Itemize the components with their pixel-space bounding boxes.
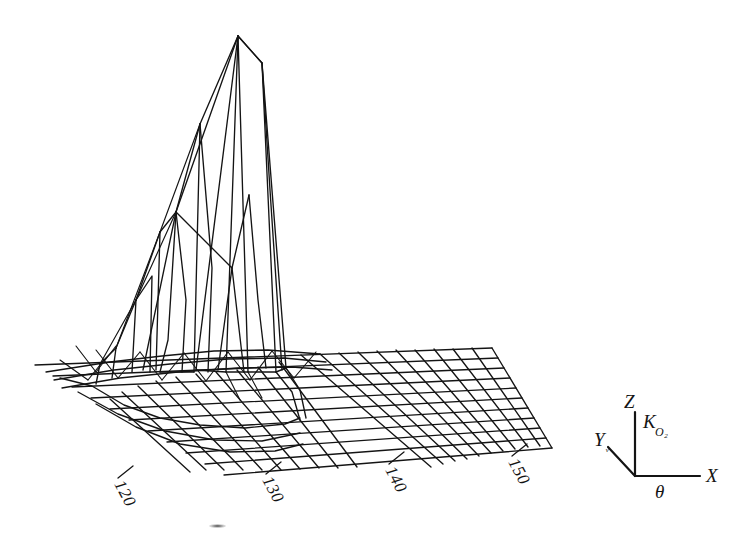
tick-label-120: 120: [110, 477, 139, 510]
wireframe-surface-svg: 120 130 140 150 Z K O₂ Y ᵥ X θ: [0, 0, 739, 547]
legend-z-quantity-sub: O₂: [655, 425, 668, 439]
axis-tick-labels: 120 130 140 150: [110, 455, 533, 510]
axis-orientation-legend: Z K O₂ Y ᵥ X θ: [594, 391, 719, 502]
surface-plot-figure: 120 130 140 150 Z K O₂ Y ᵥ X θ: [0, 0, 739, 547]
scan-smudge-artifact: [209, 524, 226, 528]
primary-peak-mesh: [143, 36, 286, 372]
tick-label-130: 130: [258, 473, 287, 506]
legend-x-quantity: θ: [655, 481, 664, 502]
legend-z-letter: Z: [624, 391, 635, 412]
tick-label-140: 140: [381, 463, 410, 496]
tick-120: [118, 466, 133, 478]
legend-x-letter: X: [705, 465, 719, 486]
legend-y-axis: [608, 447, 635, 476]
tick-label-150: 150: [504, 455, 533, 488]
legend-y-letter-sub: ᵥ: [605, 440, 609, 454]
tick-140: [389, 452, 404, 464]
